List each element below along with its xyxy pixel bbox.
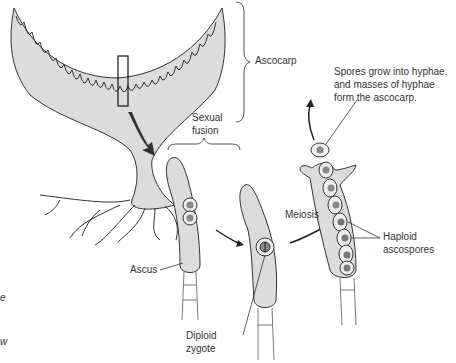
ascus-1-stalk	[182, 272, 198, 320]
label-haploid-1: Haploid	[383, 231, 417, 243]
label-spores-note-2: and masses of hyphae	[334, 79, 435, 91]
leader-spores	[326, 100, 357, 144]
label-sexual-fusion-2: fusion	[192, 125, 219, 137]
ascus-2-stalk	[258, 308, 274, 360]
edge-fragment-e: e	[0, 292, 6, 304]
label-meiosis: Meiosis	[285, 209, 319, 221]
label-diploid-2: zygote	[186, 343, 215, 355]
label-ascus: Ascus	[130, 264, 157, 276]
label-ascocarp: Ascocarp	[255, 55, 297, 67]
arrow-to-zygote	[216, 230, 238, 243]
ascocarp-cup	[11, 8, 225, 209]
fusion-brace	[168, 138, 240, 150]
arrow-growth	[309, 105, 314, 140]
edge-fragment-w: w	[0, 336, 7, 348]
label-diploid-1: Diploid	[186, 330, 217, 342]
label-haploid-2: ascospores	[383, 244, 434, 256]
leader-ascus	[160, 263, 183, 270]
diploid-nucleus	[256, 238, 274, 256]
ascus-3-stalk	[340, 278, 356, 325]
label-spores-note-3: form the ascocarp.	[334, 92, 417, 104]
label-sexual-fusion-1: Sexual	[192, 112, 223, 124]
diagram-canvas	[0, 0, 456, 363]
label-spores-note-1: Spores grow into hyphae,	[334, 66, 447, 78]
ascocarp-brace	[236, 2, 250, 122]
